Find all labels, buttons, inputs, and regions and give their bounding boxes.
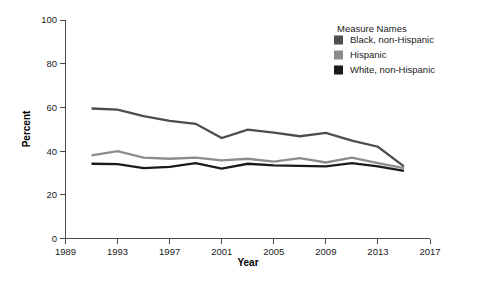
legend-item[interactable]: White, non-Hispanic bbox=[334, 64, 435, 75]
y-tick-label: 0 bbox=[52, 233, 57, 244]
y-tick-label: 40 bbox=[46, 146, 57, 157]
x-tick-label: 1997 bbox=[159, 246, 180, 257]
y-tick-label: 100 bbox=[41, 14, 57, 25]
legend-item[interactable]: Hispanic bbox=[334, 49, 387, 60]
x-tick-label: 2017 bbox=[419, 246, 440, 257]
x-tick-label: 2005 bbox=[263, 246, 284, 257]
x-axis-title: Year bbox=[237, 257, 258, 268]
legend-swatch-black-non-hispanic bbox=[334, 36, 343, 45]
x-tick-label: 2001 bbox=[211, 246, 232, 257]
legend-swatch-white-non-hispanic bbox=[334, 66, 343, 75]
chart-canvas: 020406080100 198919931997200120052009201… bbox=[0, 0, 499, 284]
y-tick-label: 60 bbox=[46, 102, 57, 113]
y-tick-label: 20 bbox=[46, 189, 57, 200]
x-tick-label: 2013 bbox=[367, 246, 388, 257]
legend-item-label: White, non-Hispanic bbox=[350, 64, 435, 75]
legend-item[interactable]: Black, non-Hispanic bbox=[334, 34, 434, 45]
legend-item-label: Hispanic bbox=[350, 49, 387, 60]
legend-title: Measure Names bbox=[337, 23, 407, 34]
line-chart: 020406080100 198919931997200120052009201… bbox=[0, 0, 499, 284]
x-tick-label: 1993 bbox=[107, 246, 128, 257]
y-tick-label: 80 bbox=[46, 58, 57, 69]
x-tick-label: 1989 bbox=[55, 246, 76, 257]
y-axis-title: Percent bbox=[21, 110, 32, 147]
x-tick-label: 2009 bbox=[315, 246, 336, 257]
legend-item-label: Black, non-Hispanic bbox=[350, 34, 434, 45]
legend-swatch-hispanic bbox=[334, 51, 343, 60]
